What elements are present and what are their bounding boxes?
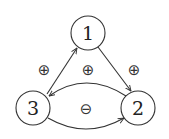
edge-1-to-2 — [98, 47, 131, 91]
edge-label-bottom: ⊖ — [80, 100, 93, 118]
node-1-label: 1 — [82, 22, 94, 44]
node-2: 2 — [121, 91, 155, 125]
node-3-label: 3 — [27, 97, 39, 119]
node-2-label: 2 — [132, 97, 144, 119]
edge-2-to-3 — [49, 83, 126, 96]
diagram-canvas: 1 2 3 ⊕ ⊕ ⊕ ⊖ — [0, 0, 169, 139]
signed-graph-diagram: 1 2 3 ⊕ ⊕ ⊕ ⊖ — [0, 0, 169, 139]
node-3: 3 — [16, 91, 50, 125]
edge-3-to-1 — [47, 48, 77, 94]
edge-label-right: ⊕ — [128, 61, 141, 79]
node-1: 1 — [71, 16, 105, 50]
edge-label-center: ⊕ — [82, 61, 95, 79]
edge-3-to-2 — [48, 118, 124, 129]
edge-label-left: ⊕ — [38, 61, 51, 79]
